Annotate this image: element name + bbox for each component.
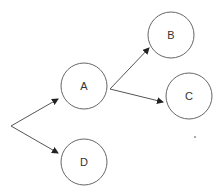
diagram-canvas: A B C D: [0, 0, 222, 196]
node-d-label: D: [80, 156, 88, 168]
edge-a-to-b: [110, 48, 149, 89]
edge-origin-to-d: [11, 126, 58, 153]
node-b-label: B: [167, 29, 174, 41]
node-c: C: [166, 73, 212, 119]
node-c-label: C: [185, 90, 193, 102]
node-a: A: [61, 63, 107, 109]
edge-origin-to-a: [11, 99, 58, 126]
artifact-dot: [194, 136, 196, 138]
node-a-label: A: [80, 80, 88, 92]
node-b: B: [148, 12, 194, 58]
edge-a-to-c: [110, 89, 163, 102]
node-d: D: [61, 139, 107, 185]
